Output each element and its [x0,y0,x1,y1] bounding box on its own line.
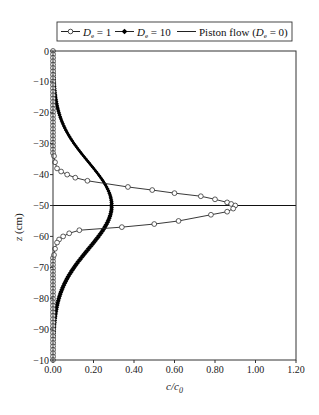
circle-marker [67,231,72,236]
y-tick-label: −10 [33,76,49,87]
legend: De = 1De = 10Piston flow (De = 0) [57,22,292,41]
de10-line [53,51,112,359]
circle-marker [176,219,181,224]
legend-de1-label: De = 1 [82,26,111,40]
y-tick-label: −40 [33,169,49,180]
x-tick-label: 0.00 [44,364,62,375]
circle-marker [73,175,78,180]
legend-de1-marker [68,29,73,34]
circle-marker [172,191,177,196]
circle-marker [231,206,236,211]
x-tick-label: 0.40 [125,364,143,375]
x-tick-label: 0.60 [166,364,184,375]
legend-de10-label: De = 10 [136,26,171,40]
y-tick-label: −60 [33,231,49,242]
circle-marker [59,169,64,174]
y-tick-label: −70 [33,262,49,273]
circle-marker [126,185,131,190]
circle-marker [152,222,157,227]
circle-marker [52,253,57,258]
y-tick-label: 0 [44,46,49,57]
circle-marker [52,154,57,159]
plot-area [51,49,296,363]
legend-piston-label: Piston flow (De = 0) [199,26,288,40]
y-tick-label: −30 [33,138,49,149]
x-axis-label: c/c0 [166,380,183,395]
de10-markers [51,49,114,361]
y-tick-label: −90 [33,324,49,335]
circle-marker [55,240,60,245]
y-tick-label: −20 [33,107,49,118]
x-tick-label: 0.80 [206,364,224,375]
circle-marker [77,228,82,233]
circle-marker [209,212,214,217]
circle-marker [213,197,218,202]
circle-marker [225,209,230,214]
x-tick-label: 0.20 [85,364,103,375]
y-tick-label: −50 [33,200,49,211]
circle-marker [198,194,203,199]
circle-marker [65,172,70,177]
y-axis-label: z (cm) [12,213,25,242]
circle-marker [119,225,124,230]
x-tick-label: 1.00 [247,364,265,375]
circle-marker [150,188,155,193]
y-tick-label: −80 [33,293,49,304]
chart: De = 1De = 10Piston flow (De = 0) 0−10−2… [0,0,319,415]
circle-marker [85,178,90,183]
x-tick-label: 1.20 [287,364,305,375]
